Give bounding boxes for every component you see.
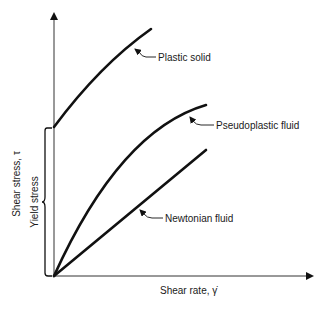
pseudoplastic-curve — [54, 105, 206, 276]
rheology-diagram: Plastic solid Pseudoplastic fluid Newton… — [0, 0, 324, 309]
pseudoplastic-pointer — [190, 117, 214, 125]
plastic-solid-pointer — [135, 49, 156, 57]
yield-stress-brace — [42, 128, 52, 276]
x-axis-label: Shear rate, γ̇ — [160, 285, 218, 296]
pseudoplastic-label: Pseudoplastic fluid — [216, 120, 299, 131]
plastic-solid-curve — [54, 29, 151, 127]
plastic-solid-label: Plastic solid — [158, 52, 211, 63]
newtonian-pointer — [140, 210, 163, 218]
yield-stress-label: Yield stress — [29, 176, 40, 227]
newtonian-label: Newtonian fluid — [165, 213, 233, 224]
y-axis-label: Shear stress, τ — [11, 151, 22, 217]
